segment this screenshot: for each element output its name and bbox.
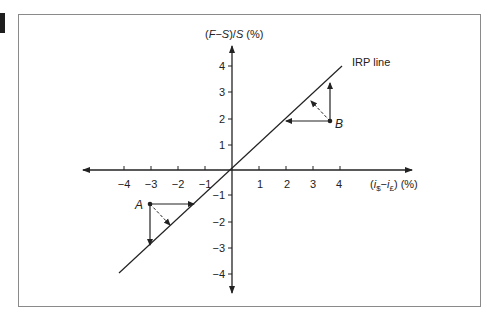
irp-diagram: −4 −3 −2 −1 1 2 3 4 4 3 2 1 −1 −2 −3 −4 … [0, 0, 496, 320]
x-tick-labels: −4 −3 −2 −1 1 2 3 4 [118, 178, 342, 190]
irp-line-label: IRP line [352, 56, 390, 68]
point-b-marker [328, 119, 333, 124]
y-tick-label: −2 [212, 216, 225, 228]
point-a-label: A [134, 198, 143, 212]
y-tick-label: 2 [219, 113, 225, 125]
x-tick-label: 2 [284, 178, 290, 190]
arrow-a-dashed [150, 204, 170, 225]
point-b-group: B [286, 83, 343, 131]
x-tick-label: −3 [145, 178, 158, 190]
x-tick-label: −2 [172, 178, 185, 190]
point-b-label: B [335, 117, 343, 131]
y-tick-label: 4 [219, 60, 225, 72]
x-tick-label: −4 [118, 178, 131, 190]
point-a-group: A [134, 198, 194, 245]
x-axis-label: (i$−i£) (%) [370, 178, 418, 193]
y-tick-label: −1 [212, 189, 225, 201]
y-tick-label: 3 [219, 86, 225, 98]
y-tick-label: −3 [212, 242, 225, 254]
x-tick-label: 1 [257, 178, 263, 190]
y-tick-label: 1 [219, 139, 225, 151]
x-tick-label: −1 [199, 178, 212, 190]
y-axis-label: (F−S)/S (%) [205, 28, 263, 40]
point-a-marker [148, 202, 153, 207]
arrow-b-dashed [311, 101, 330, 121]
x-tick-label: 4 [336, 178, 342, 190]
y-tick-label: −4 [212, 268, 225, 280]
x-tick-label: 3 [310, 178, 316, 190]
